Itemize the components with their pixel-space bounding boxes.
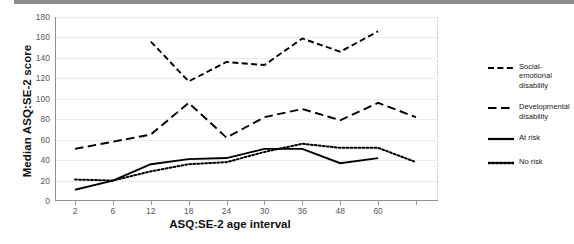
series-line — [151, 31, 378, 81]
legend-item-social-emotional-disability[interactable]: Social-emotionaldisability — [488, 62, 574, 90]
legend-item-no-risk[interactable]: No risk — [488, 157, 574, 169]
top-border-gap — [0, 0, 14, 4]
legend-line-swatch-icon — [488, 133, 514, 145]
series-line — [75, 149, 378, 190]
y-axis-tick-label: 100 — [36, 94, 50, 104]
series-line — [75, 103, 416, 149]
series-lines — [55, 17, 438, 201]
y-axis-tick-label: 80 — [41, 114, 50, 124]
y-axis-tick-label: 40 — [41, 155, 50, 165]
legend-item-label: No risk — [519, 157, 543, 166]
x-axis-tick-label: 30 — [260, 206, 269, 216]
legend-item-label: Social-emotionaldisability — [519, 62, 574, 90]
plot-area: 020406080100120140160180 261218243036486… — [55, 17, 438, 201]
x-axis-tick-mark — [227, 201, 228, 205]
legend-item-at-risk[interactable]: At risk — [488, 133, 574, 145]
x-axis-tick-label: 24 — [222, 206, 231, 216]
x-axis-tick-label: 12 — [146, 206, 155, 216]
x-axis-tick-mark — [340, 201, 341, 205]
x-axis-tick-mark — [378, 201, 379, 205]
y-axis-tick-label: 180 — [36, 12, 50, 22]
x-axis-tick-mark — [302, 201, 303, 205]
x-axis-tick-label: 48 — [335, 206, 344, 216]
x-axis-tick-mark — [75, 201, 76, 205]
top-border-strip — [0, 0, 574, 4]
y-axis-tick-label: 60 — [41, 135, 50, 145]
y-axis-tick-label: 160 — [36, 32, 50, 42]
chart-legend: Social-emotionaldisabilityDevelopmentald… — [488, 62, 574, 181]
x-axis-tick-label: 18 — [184, 206, 193, 216]
legend-line-swatch-icon — [488, 157, 514, 169]
x-axis-tick-label: 60 — [373, 206, 382, 216]
x-axis-tick-label: 6 — [111, 206, 116, 216]
x-axis-tick-mark — [189, 201, 190, 205]
x-axis-tick-label: 2 — [73, 206, 78, 216]
x-axis-tick-mark — [151, 201, 152, 205]
y-axis-tick-label: 0 — [45, 196, 50, 206]
legend-item-label: Developmentaldisability — [519, 102, 570, 121]
x-axis-tick-label: 36 — [298, 206, 307, 216]
x-axis-tick-mark — [264, 201, 265, 205]
y-axis-title: Median ASQ:SE-2 score — [21, 26, 33, 196]
x-axis-tick-mark — [113, 201, 114, 205]
legend-line-swatch-icon — [488, 102, 514, 114]
y-axis-tick-label: 20 — [41, 176, 50, 186]
legend-item-developmental-disability[interactable]: Developmentaldisability — [488, 102, 574, 121]
legend-item-label: At risk — [519, 133, 540, 142]
chart-figure: Median ASQ:SE-2 score 020406080100120140… — [0, 0, 574, 244]
x-axis-tick-mark — [416, 201, 417, 205]
y-axis-tick-label: 140 — [36, 53, 50, 63]
legend-line-swatch-icon — [488, 62, 514, 74]
y-axis-tick-label: 120 — [36, 73, 50, 83]
x-axis-title: ASQ:SE-2 age interval — [50, 218, 410, 230]
